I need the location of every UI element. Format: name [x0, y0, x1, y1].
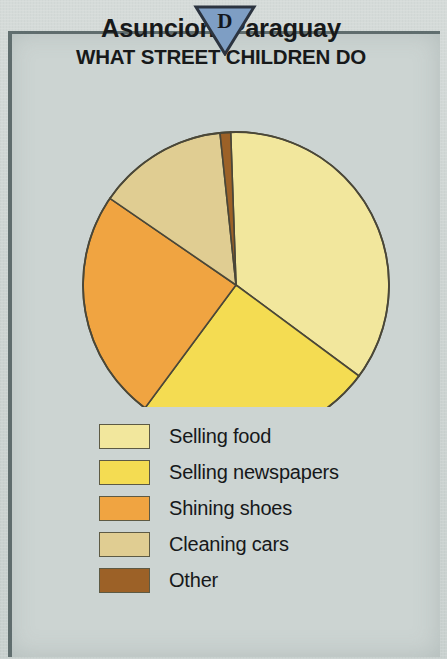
legend-swatch — [99, 424, 150, 449]
legend-label: Other — [169, 569, 218, 592]
legend-label: Selling food — [169, 425, 271, 448]
legend-swatch — [99, 460, 150, 485]
legend-label: Selling newspapers — [169, 461, 339, 484]
legend-item: Cleaning cars — [99, 526, 419, 562]
pie-chart — [75, 91, 391, 407]
pie-chart-svg — [75, 91, 391, 407]
legend-item: Shining shoes — [99, 490, 419, 526]
legend: Selling foodSelling newspapersShining sh… — [99, 418, 419, 598]
legend-swatch — [99, 568, 150, 593]
legend-label: Cleaning cars — [169, 533, 289, 556]
legend-item: Other — [99, 562, 419, 598]
down-triangle-marker-icon: D — [193, 4, 257, 56]
legend-swatch — [99, 496, 150, 521]
legend-swatch — [99, 532, 150, 557]
marker-letter: D — [193, 9, 257, 34]
legend-label: Shining shoes — [169, 497, 292, 520]
pie-slices-group — [83, 132, 389, 407]
legend-item: Selling newspapers — [99, 454, 419, 490]
legend-item: Selling food — [99, 418, 419, 454]
page-background: D Asuncion, Paraguay WHAT STREET CHILDRE… — [0, 0, 447, 659]
